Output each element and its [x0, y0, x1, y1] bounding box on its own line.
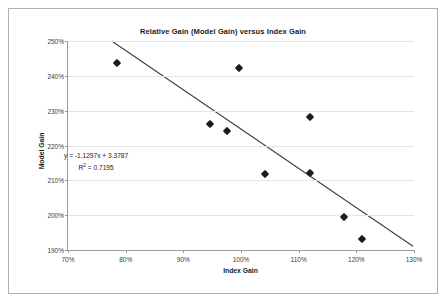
x-axis-tick-mark [183, 250, 184, 253]
y-axis-tick-label: 190% [47, 247, 64, 254]
y-axis-tick-label: 200% [47, 212, 64, 219]
gridline-horizontal [68, 146, 414, 147]
gridline-horizontal [68, 180, 414, 181]
x-axis-tick-mark [68, 250, 69, 253]
r-squared-number: = 0.7195 [86, 164, 114, 171]
x-axis-tick-mark [126, 250, 127, 253]
x-axis-tick-label: 130% [406, 256, 423, 263]
x-axis-tick-label: 120% [348, 256, 365, 263]
regression-equation: y = -1.1297x + 3.3787 [64, 151, 128, 161]
gridline-horizontal [68, 111, 414, 112]
x-axis-tick-label: 110% [291, 256, 307, 263]
regression-annotation: y = -1.1297x + 3.3787 R2 = 0.7195 [64, 151, 128, 173]
x-axis-title: Index Gain [67, 267, 414, 274]
x-axis-tick-label: 90% [177, 256, 190, 263]
y-axis-tick-label: 210% [47, 177, 64, 184]
r-squared-value: R2 = 0.7195 [64, 161, 128, 173]
x-axis-tick-mark [299, 250, 300, 253]
x-axis-tick-mark [241, 250, 242, 253]
y-axis-tick-label: 230% [47, 107, 64, 114]
x-axis-tick-mark [414, 250, 415, 253]
gridline-horizontal [68, 76, 414, 77]
gridline-horizontal [68, 41, 414, 42]
x-axis-tick-mark [356, 250, 357, 253]
y-axis-tick-mark [65, 215, 68, 216]
y-axis-tick-label: 240% [47, 72, 64, 79]
x-axis-tick-label: 80% [119, 256, 132, 263]
plot-area: 190%200%210%220%230%240%250%70%80%90%100… [67, 41, 414, 251]
x-axis-tick-label: 70% [61, 256, 74, 263]
chart-title: Relative Gain (Model Gain) versus Index … [9, 27, 437, 36]
y-axis-tick-label: 220% [47, 142, 64, 149]
y-axis-tick-mark [65, 76, 68, 77]
x-axis-tick-label: 100% [233, 256, 250, 263]
y-axis-tick-mark [65, 41, 68, 42]
y-axis-tick-mark [65, 180, 68, 181]
gridline-horizontal [68, 215, 414, 216]
y-axis-tick-mark [65, 146, 68, 147]
y-axis-title: Model Gain [38, 133, 45, 170]
y-axis-tick-label: 250% [47, 38, 64, 45]
chart-container: Relative Gain (Model Gain) versus Index … [8, 8, 438, 294]
y-axis-tick-mark [65, 111, 68, 112]
